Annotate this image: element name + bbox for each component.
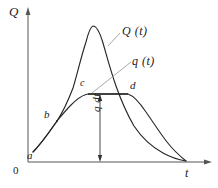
point-label-c: c [80,78,84,88]
axes-group [26,7,212,164]
point-label-d: d [130,80,136,91]
x-axis-label: t [185,167,188,179]
origin-label: 0 [13,165,19,176]
hydrograph-figure: Q t 0 a b c d Q (t) q (t) q dt [0,0,218,188]
point-label-a: a [27,150,33,161]
x-axis-arrowhead [204,160,212,165]
q-dt-annotation-label: q dt [91,93,102,112]
q-dt-arrowhead-bottom [98,155,102,162]
y-axis-arrowhead [26,7,31,15]
curve-q-baseflow [33,94,186,161]
point-marker-b [56,120,58,122]
curve-label-q-baseflow: q (t) [132,55,155,67]
y-axis-label: Q [9,5,18,18]
leader-line-Q-label [108,33,120,46]
curve-label-Q-total: Q (t) [122,25,148,37]
point-label-b: b [44,109,50,120]
leader-line-q-label [92,62,131,93]
